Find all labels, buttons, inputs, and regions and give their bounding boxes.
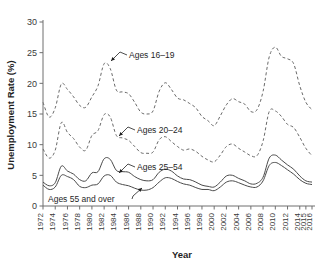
annotation-label-ages-55-over: Ages 55 and over bbox=[48, 194, 115, 204]
annotation-label-ages-25-54: Ages 25–54 bbox=[137, 162, 183, 172]
annotation-label-ages-16-19: Ages 16–19 bbox=[129, 50, 175, 60]
x-axis-title: Year bbox=[172, 249, 192, 260]
y-axis-title: Unemployment Rate (%) bbox=[5, 60, 16, 169]
series-annotations: Ages 16–19Ages 20–24Ages 25–54Ages 55 an… bbox=[48, 50, 183, 204]
labels-layer: Unemployment Rate (%) Year Ages 16–19Age… bbox=[0, 0, 326, 267]
annotation-label-ages-20-24: Ages 20–24 bbox=[137, 125, 183, 135]
unemployment-rate-chart: 051015202530 197219741976197819801982198… bbox=[0, 0, 326, 267]
